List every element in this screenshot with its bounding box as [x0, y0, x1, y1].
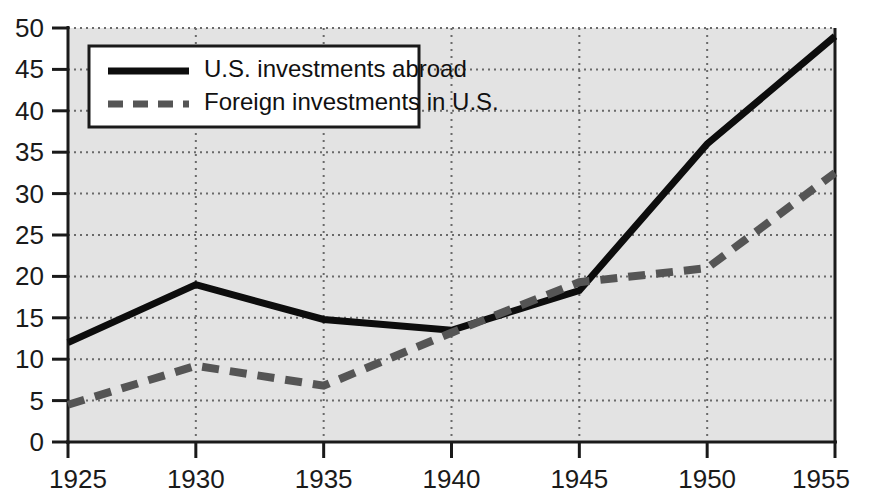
line-chart: 05101520253035404550 1925193019351940194… — [0, 0, 870, 496]
x-axis-tick-label: 1945 — [550, 464, 608, 494]
y-axis-tick-label: 35 — [15, 137, 44, 167]
y-axis-tick-label: 5 — [30, 386, 44, 416]
x-axis-tick-label: 1940 — [423, 464, 481, 494]
x-axis-tick-label: 1930 — [167, 464, 225, 494]
x-axis-tick-label: 1925 — [49, 464, 107, 494]
y-axis-tick-label: 0 — [30, 427, 44, 457]
legend-item-label-0: U.S. investments abroad — [204, 55, 467, 82]
y-axis-tick-label: 15 — [15, 303, 44, 333]
x-axis-tick-labels: 1925193019351940194519501955 — [49, 464, 850, 494]
y-axis-tick-label: 25 — [15, 220, 44, 250]
y-axis-tick-label: 50 — [15, 13, 44, 43]
y-axis-tick-label: 45 — [15, 54, 44, 84]
legend-item-label-1: Foreign investments in U.S. — [204, 88, 499, 115]
y-axis-ticks — [52, 28, 68, 442]
x-axis-tick-label: 1935 — [295, 464, 353, 494]
x-axis-tick-label: 1955 — [792, 464, 850, 494]
x-axis-ticks — [68, 442, 835, 458]
chart-container: 05101520253035404550 1925193019351940194… — [0, 0, 870, 496]
x-axis-tick-label: 1950 — [678, 464, 736, 494]
y-axis-tick-label: 10 — [15, 344, 44, 374]
y-axis-tick-label: 30 — [15, 179, 44, 209]
y-axis-tick-labels: 05101520253035404550 — [15, 13, 44, 457]
y-axis-tick-label: 40 — [15, 96, 44, 126]
y-axis-tick-label: 20 — [15, 261, 44, 291]
